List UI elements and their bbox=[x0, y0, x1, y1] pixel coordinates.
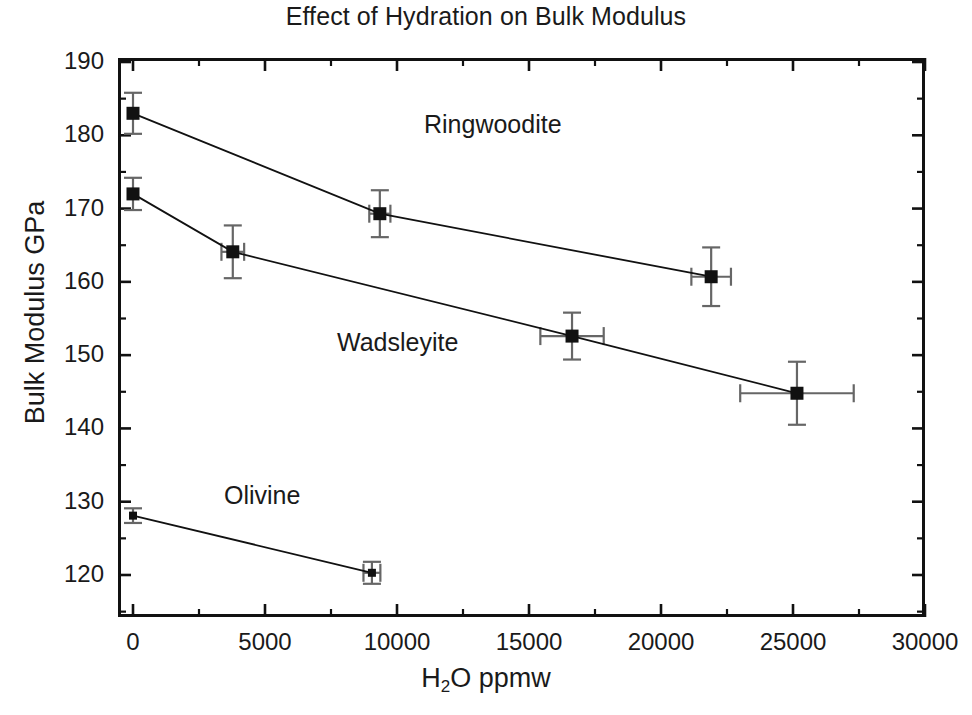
series-line bbox=[133, 516, 372, 573]
series-wadsleyite bbox=[124, 178, 854, 425]
x-tick-label: 20000 bbox=[591, 630, 731, 654]
data-point-marker bbox=[127, 187, 140, 200]
series-label-wadsleyite: Wadsleyite bbox=[337, 328, 458, 357]
data-point-marker bbox=[790, 387, 803, 400]
x-tick-label: 5000 bbox=[195, 630, 335, 654]
x-axis-title-sub: 2 bbox=[441, 677, 450, 696]
data-point-marker bbox=[373, 207, 386, 220]
axis-ticks bbox=[118, 58, 925, 617]
chart-canvas bbox=[0, 0, 972, 715]
y-tick-label: 150 bbox=[42, 342, 104, 366]
y-tick-label: 160 bbox=[42, 269, 104, 293]
x-axis-title-post: O ppmw bbox=[450, 663, 551, 693]
chart-page: Effect of Hydration on Bulk Modulus 1201… bbox=[0, 0, 972, 715]
x-tick-label: 15000 bbox=[459, 630, 599, 654]
data-point-marker bbox=[127, 107, 140, 120]
series-label-ringwoodite: Ringwoodite bbox=[424, 110, 562, 139]
y-tick-label: 190 bbox=[42, 49, 104, 73]
y-tick-label: 130 bbox=[42, 489, 104, 513]
data-point-marker bbox=[705, 270, 718, 283]
x-tick-label: 30000 bbox=[855, 630, 972, 654]
x-tick-label: 0 bbox=[63, 630, 203, 654]
series-line bbox=[133, 113, 711, 276]
y-tick-label: 120 bbox=[42, 562, 104, 586]
series-label-olivine: Olivine bbox=[224, 481, 300, 510]
x-axis-title: H2O ppmw bbox=[0, 663, 972, 697]
x-tick-label: 10000 bbox=[327, 630, 467, 654]
y-tick-label: 140 bbox=[42, 415, 104, 439]
y-tick-label: 180 bbox=[42, 122, 104, 146]
series-line bbox=[133, 194, 797, 393]
x-tick-label: 25000 bbox=[723, 630, 863, 654]
y-tick-label: 170 bbox=[42, 196, 104, 220]
data-point-marker bbox=[226, 245, 239, 258]
data-point-marker bbox=[368, 569, 376, 577]
x-axis-title-pre: H bbox=[421, 663, 441, 693]
data-point-marker bbox=[129, 512, 137, 520]
data-point-marker bbox=[566, 330, 579, 343]
y-axis-title: Bulk Modulus GPa bbox=[20, 133, 51, 493]
series-olivine bbox=[124, 508, 381, 583]
